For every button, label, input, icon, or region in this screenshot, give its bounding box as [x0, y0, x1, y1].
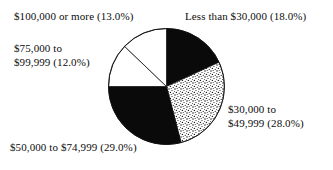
- pie-label-30000-line1: $30,000 to: [228, 103, 304, 117]
- pie-chart-figure: $100,000 or more (13.0%) Less than $30,0…: [0, 0, 333, 170]
- pie-label-75000-line1: $75,000 to: [14, 42, 90, 56]
- pie-label-100000-or-more: $100,000 or more (13.0%): [14, 10, 133, 24]
- pie-label-75000-line2: $99,999 (12.0%): [14, 56, 90, 70]
- pie-label-50000-to-74999: $50,000 to $74,999 (29.0%): [10, 141, 137, 155]
- pie-label-30000-to-49999: $30,000 to $49,999 (28.0%): [228, 103, 304, 130]
- pie-label-less-than-30000: Less than $30,000 (18.0%): [185, 10, 306, 24]
- pie-label-75000-to-99999: $75,000 to $99,999 (12.0%): [14, 42, 90, 69]
- pie-label-30000-line2: $49,999 (28.0%): [228, 117, 304, 131]
- pie-chart-svg: [108, 28, 225, 145]
- pie-chart-graphic: [108, 28, 225, 145]
